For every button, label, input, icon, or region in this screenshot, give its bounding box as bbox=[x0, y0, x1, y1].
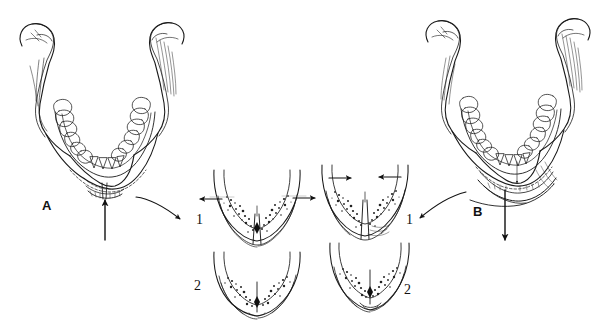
inset-label-a1: 1 bbox=[196, 213, 203, 227]
panel-label-b: B bbox=[473, 205, 483, 218]
connector-arrow-b bbox=[420, 192, 466, 218]
anatomical-line-art bbox=[0, 0, 599, 321]
figure-canvas: A B 1 2 1 2 bbox=[0, 0, 599, 321]
inset-label-b1: 1 bbox=[406, 213, 413, 227]
inset-label-a2: 2 bbox=[194, 279, 201, 293]
inset-b1 bbox=[322, 165, 408, 240]
connector-arrow-a bbox=[136, 197, 180, 219]
inset-a1 bbox=[200, 170, 315, 247]
mandible-b bbox=[420, 19, 590, 240]
inset-label-b2: 2 bbox=[404, 283, 411, 297]
panel-label-a: A bbox=[42, 199, 52, 212]
inset-b2 bbox=[330, 243, 409, 312]
inset-a2 bbox=[214, 252, 300, 319]
